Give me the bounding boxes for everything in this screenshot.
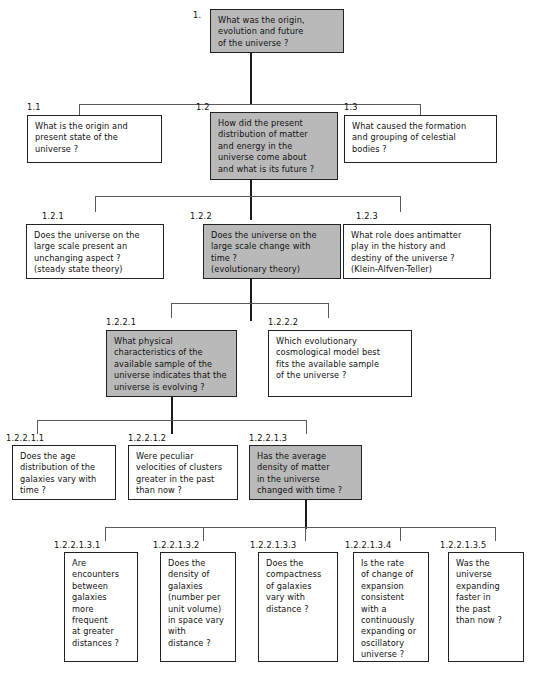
connector-bus-level5 [37,420,307,421]
node-box-1-2-2-1-3-3[interactable]: Does the compactness of galaxies vary wi… [258,552,338,662]
connector-tick-1-2-1 [95,196,96,212]
connector-tick-1-2-2-1-3-5 [495,527,496,541]
connector-tick-1-2-2-1-1 [37,420,38,434]
node-number-1-2-2-1-3-3: 1.2.2.1.3.3 [250,541,296,550]
node-number-1: 1. [193,11,201,20]
connector-trunk-1-2-2 [250,279,252,321]
node-box-1-1[interactable]: What is the origin and present state of … [27,115,162,163]
node-number-1-2-2-1-3: 1.2.2.1.3 [249,434,287,443]
node-box-1-2-2-1-3-4[interactable]: Is the rate of change of expansion consi… [353,552,429,662]
connector-tick-1-2-2-1-3-3 [305,527,306,541]
node-box-1-2-2-1-3[interactable]: Has the average density of matter in the… [249,445,362,500]
node-number-1-2-1: 1.2.1 [42,212,64,221]
connector-trunk-1-2-2-1-3 [305,500,307,529]
node-box-1[interactable]: What was the origin, evolution and futur… [210,9,344,53]
node-number-1-2-2-1-3-4: 1.2.2.1.3.4 [345,541,391,550]
connector-bus-level3 [95,196,401,197]
connector-bus-level2 [79,104,421,105]
node-number-1-2-3: 1.2.3 [356,212,378,221]
node-number-1-2: 1.2 [196,103,210,112]
connector-tick-1-2-2-1-3 [306,420,307,434]
node-box-1-2-2-2[interactable]: Which evolutionary cosmological model be… [268,330,412,397]
node-box-1-2-2-1-1[interactable]: Does the age distribution of the galaxie… [12,445,116,500]
question-tree-diagram: 1. What was the origin, evolution and fu… [0,0,547,673]
connector-tick-1-2-2-1-3-2 [203,527,204,541]
connector-tick-1-2-2-1 [171,303,172,318]
node-box-1-2-3[interactable]: What role does antimatter play in the hi… [343,224,491,279]
connector-bus-level4 [171,303,329,304]
node-box-1-2-2-1-3-2[interactable]: Does the density of galaxies (number per… [160,552,236,662]
connector-tick-1-2-3 [400,196,401,212]
node-box-1-2-2-1-2[interactable]: Were peculiar velocities of clusters gre… [128,445,238,500]
node-number-1-2-2-1-1: 1.2.2.1.1 [6,434,44,443]
connector-tick-1-2-2-1-3-1 [105,527,106,541]
node-number-1-2-2-1-3-2: 1.2.2.1.3.2 [153,541,199,550]
node-box-1-2-2-1[interactable]: What physical characteristics of the ava… [106,330,237,397]
connector-tick-1-2-2-1-3-4 [400,527,401,541]
connector-bus-level6 [105,527,496,528]
node-box-1-3[interactable]: What caused the formation and grouping o… [344,115,497,163]
node-number-1-3: 1.3 [344,103,358,112]
connector-trunk-1-2 [250,180,252,220]
node-number-1-2-2-2: 1.2.2.2 [268,318,298,327]
node-number-1-2-2-1-3-5: 1.2.2.1.3.5 [440,541,486,550]
node-number-1-2-2-1: 1.2.2.1 [106,318,136,327]
node-box-1-2-2-1-3-1[interactable]: Are encounters between galaxies more fre… [64,552,138,662]
node-box-1-2-2-1-3-5[interactable]: Was the universe expanding faster in the… [448,552,524,662]
node-number-1-2-2: 1.2.2 [190,212,212,221]
node-box-1-2-1[interactable]: Does the universe on the large scale pre… [26,224,164,279]
node-number-1-2-2-1-3-1: 1.2.2.1.3.1 [54,541,100,550]
node-box-1-2[interactable]: How did the present distribution of matt… [210,112,338,180]
node-box-1-2-2[interactable]: Does the universe on the large scale cha… [203,224,341,279]
node-number-1-2-2-1-2: 1.2.2.1.2 [128,434,166,443]
connector-trunk-1-2-2-1 [171,397,173,434]
connector-trunk-1 [250,53,252,105]
connector-tick-1-2-2-2 [328,303,329,318]
node-number-1-1: 1.1 [27,103,41,112]
